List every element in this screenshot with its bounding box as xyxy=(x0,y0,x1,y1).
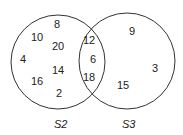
s2-value: 4 xyxy=(20,53,26,65)
s3-value: 9 xyxy=(129,25,135,37)
s2-value: 10 xyxy=(31,31,43,43)
intersection-value: 18 xyxy=(83,71,95,83)
s3-value: 3 xyxy=(152,62,158,74)
venn-diagram: 8 10 20 4 14 16 2 12 6 18 9 3 15 S2 S3 xyxy=(0,0,183,135)
set-s3-label: S3 xyxy=(122,118,136,130)
s2-value: 8 xyxy=(54,18,60,30)
intersection-value: 6 xyxy=(90,53,96,65)
s3-value: 15 xyxy=(117,79,129,91)
s2-value: 14 xyxy=(52,64,64,76)
s2-value: 2 xyxy=(56,87,62,99)
s2-value: 20 xyxy=(52,40,64,52)
s2-value: 16 xyxy=(31,75,43,87)
intersection-value: 12 xyxy=(83,34,95,46)
set-s2-label: S2 xyxy=(54,118,67,130)
